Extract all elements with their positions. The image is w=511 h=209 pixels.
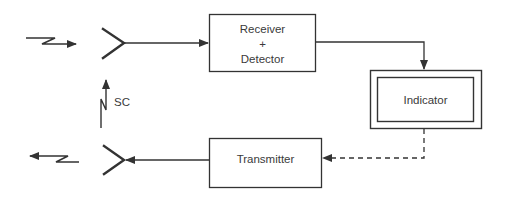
sc-coupling-arrow-icon — [101, 80, 106, 128]
plus-label: + — [259, 38, 266, 50]
dashed-arrowhead-icon — [322, 154, 332, 162]
receiver-label: Receiver — [240, 23, 286, 35]
receive-antenna-icon — [103, 29, 124, 58]
indicator-label: Indicator — [403, 94, 447, 106]
transmit-antenna-icon — [104, 146, 124, 174]
outgoing-signal-icon — [30, 156, 79, 162]
incoming-signal-icon — [26, 38, 76, 44]
block-diagram: Receiver + Detector Indicator Transmitte… — [0, 0, 511, 209]
sc-label: SC — [114, 96, 130, 108]
detector-label: Detector — [241, 53, 285, 65]
indicator-block: Indicator — [371, 71, 482, 129]
receiver-to-indicator-arrow — [316, 42, 424, 69]
transmitter-block: Transmitter — [210, 139, 322, 188]
transmitter-label: Transmitter — [237, 153, 295, 165]
receiver-detector-block: Receiver + Detector — [210, 15, 316, 72]
indicator-to-transmitter-dashed-arrow — [330, 129, 424, 158]
